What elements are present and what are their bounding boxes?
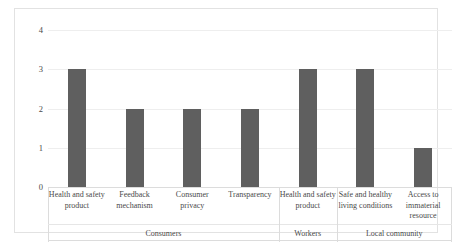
bar [126, 109, 144, 188]
chart-frame: 43210 Health and safety productFeedback … [14, 8, 438, 233]
x-axis-category-label: Consumer privacy [163, 188, 221, 224]
bar-chart: 43210 Health and safety productFeedback … [0, 0, 454, 250]
x-axis-label-table: Health and safety productFeedback mechan… [48, 187, 452, 241]
y-axis-tick-label: 1 [39, 144, 43, 153]
bar [68, 69, 86, 187]
y-axis-tick-label: 3 [39, 65, 43, 74]
y-axis-tick-label: 2 [39, 104, 43, 113]
bar [299, 69, 317, 187]
group-separator [337, 188, 338, 242]
bar-slot [163, 30, 221, 187]
x-axis-category-label: Transparency [221, 188, 279, 224]
bar-slot [394, 30, 452, 187]
x-axis-category-label: Safe and healthy living conditions [337, 188, 395, 224]
bar-slot [337, 30, 395, 187]
bar-slot [48, 30, 106, 187]
y-axis-tick-label: 4 [39, 26, 43, 35]
bars-layer [48, 30, 452, 187]
bar [356, 69, 374, 187]
table-bottom-border [48, 240, 452, 241]
x-axis-category-label: Feedback mechanism [106, 188, 164, 224]
y-axis-tick-label: 0 [39, 183, 43, 192]
group-separator [279, 188, 280, 242]
x-axis-category-label: Access to immaterial resource [394, 188, 452, 224]
bar-slot [279, 30, 337, 187]
bar [241, 109, 259, 188]
plot-area: 43210 [48, 30, 452, 187]
bar-slot [221, 30, 279, 187]
x-axis-category-label: Health and safety product [48, 188, 106, 224]
category-label-row: Health and safety productFeedback mechan… [48, 188, 452, 224]
x-axis-category-label: Health and safety product [279, 188, 337, 224]
bar [183, 109, 201, 188]
bar [414, 148, 432, 187]
bar-slot [106, 30, 164, 187]
